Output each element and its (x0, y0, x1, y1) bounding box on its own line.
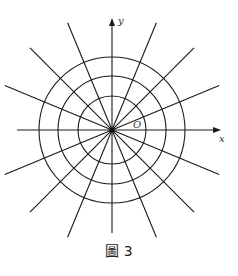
caption-number: 3 (124, 243, 133, 259)
x-axis-label: x (219, 133, 225, 144)
figure-caption: 圖 3 (0, 240, 238, 260)
origin-point (109, 127, 114, 132)
origin-label: O (133, 119, 141, 130)
caption-prefix: 圖 (105, 243, 119, 259)
y-axis-label: y (117, 15, 124, 26)
polar-grid-diagram: x y O (0, 0, 238, 276)
y-axis-arrow-icon (109, 18, 115, 26)
